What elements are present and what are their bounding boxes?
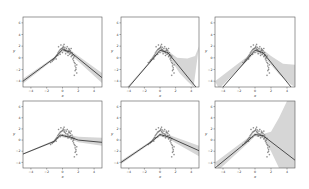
y-tick-label: −2 xyxy=(114,149,119,153)
x-tick-label: 4 xyxy=(93,89,95,93)
x-tick-label: −2 xyxy=(44,89,49,93)
y-tick-label: −2 xyxy=(16,149,21,153)
y-tick-label: 4 xyxy=(210,116,212,120)
y-tick-label: 6 xyxy=(210,105,212,109)
plot-panel-row2-col3: −4−2024−4−20246xy xyxy=(204,101,295,179)
plot-panel-row2-col1: −4−2024−4−20246xy xyxy=(12,101,102,179)
y-tick-label: −4 xyxy=(114,79,119,83)
y-tick-label: 2 xyxy=(210,127,212,131)
y-tick-label: 6 xyxy=(18,21,20,25)
x-tick-label: −4 xyxy=(221,89,226,93)
y-tick-label: 6 xyxy=(210,21,212,25)
confidence-band xyxy=(127,46,199,87)
y-tick-label: 2 xyxy=(210,44,212,48)
x-tick-label: −2 xyxy=(237,89,242,93)
y-tick-label: 0 xyxy=(18,56,20,60)
y-axis-label: y xyxy=(204,131,208,136)
x-axis-label: x xyxy=(253,174,257,179)
x-tick-label: −2 xyxy=(237,170,242,174)
x-tick-label: −4 xyxy=(29,89,34,93)
x-tick-label: −2 xyxy=(142,170,147,174)
plot-panel-row2-col2: −4−2024−4−20246xy xyxy=(110,101,199,179)
y-tick-label: −4 xyxy=(16,79,21,83)
y-tick-label: 4 xyxy=(116,116,118,120)
y-tick-label: 2 xyxy=(116,127,118,131)
x-axis-label: x xyxy=(158,174,162,179)
plot-panel-row1-col2: −4−2024−4−20246xy xyxy=(110,17,199,98)
x-tick-label: 2 xyxy=(77,89,79,93)
x-tick-label: −4 xyxy=(29,170,34,174)
y-tick-label: 4 xyxy=(18,33,20,37)
y-tick-label: 4 xyxy=(210,33,212,37)
x-tick-label: 2 xyxy=(270,89,272,93)
y-tick-label: −2 xyxy=(208,68,213,72)
x-tick-label: 4 xyxy=(190,89,192,93)
y-tick-label: 6 xyxy=(18,105,20,109)
x-axis-label: x xyxy=(253,93,257,98)
x-tick-label: −2 xyxy=(142,89,147,93)
confidence-band xyxy=(23,133,102,154)
y-axis-label: y xyxy=(12,131,16,136)
y-axis-label: y xyxy=(12,48,16,53)
y-tick-label: −2 xyxy=(16,68,21,72)
y-tick-label: 4 xyxy=(116,33,118,37)
y-axis-label: y xyxy=(204,48,208,53)
y-tick-label: −4 xyxy=(208,79,213,83)
confidence-band xyxy=(121,133,199,164)
x-axis-label: x xyxy=(158,93,162,98)
scatter-points xyxy=(50,126,78,157)
figure-grid: −4−2024−4−20246xy−4−2024−4−20246xy−4−202… xyxy=(0,0,309,189)
x-tick-label: 2 xyxy=(77,170,79,174)
y-axis-label: y xyxy=(110,48,114,53)
x-tick-label: −4 xyxy=(126,170,131,174)
y-tick-label: 2 xyxy=(116,44,118,48)
x-tick-label: 4 xyxy=(286,89,288,93)
x-tick-label: −4 xyxy=(221,170,226,174)
x-tick-label: 2 xyxy=(175,170,177,174)
y-tick-label: 0 xyxy=(210,56,212,60)
y-tick-label: 2 xyxy=(18,44,20,48)
x-tick-label: −4 xyxy=(126,89,131,93)
y-tick-label: 0 xyxy=(116,138,118,142)
plot-panel-row1-col1: −4−2024−4−20246xy xyxy=(12,17,102,98)
y-tick-label: −2 xyxy=(208,149,213,153)
y-axis-label: y xyxy=(110,131,114,136)
y-tick-label: 4 xyxy=(18,116,20,120)
x-axis-label: x xyxy=(60,174,64,179)
x-axis-label: x xyxy=(60,93,64,98)
x-tick-label: 4 xyxy=(93,170,95,174)
plot-panel-row1-col3: −4−2024−4−20246xy xyxy=(204,17,295,98)
y-tick-label: 0 xyxy=(210,138,212,142)
x-tick-label: 2 xyxy=(270,170,272,174)
x-tick-label: −2 xyxy=(44,170,49,174)
y-tick-label: −4 xyxy=(114,161,119,165)
x-tick-label: 4 xyxy=(286,170,288,174)
y-tick-label: 2 xyxy=(18,127,20,131)
y-tick-label: −2 xyxy=(114,68,119,72)
y-tick-label: −4 xyxy=(208,161,213,165)
y-tick-label: 0 xyxy=(116,56,118,60)
y-tick-label: 6 xyxy=(116,21,118,25)
x-tick-label: 2 xyxy=(175,89,177,93)
y-tick-label: 0 xyxy=(18,138,20,142)
y-tick-label: 6 xyxy=(116,105,118,109)
y-tick-label: −4 xyxy=(16,161,21,165)
x-tick-label: 4 xyxy=(190,170,192,174)
